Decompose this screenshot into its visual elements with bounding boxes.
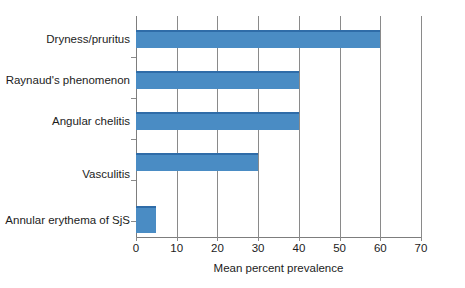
- x-axis-tick: [177, 237, 178, 241]
- x-axis-line: [136, 237, 422, 238]
- category-label-vasculitis: Vasculitis: [0, 168, 130, 180]
- gridline-60: [380, 16, 381, 237]
- y-axis-tick: [131, 57, 136, 58]
- bar-angular-chelitis: [136, 112, 299, 130]
- x-axis-title: Mean percent prevalence: [136, 262, 421, 274]
- x-axis-tick: [217, 237, 218, 241]
- x-tick-label-0: 0: [116, 242, 156, 255]
- category-label-dryness-pruritus: Dryness/pruritus: [0, 33, 130, 45]
- x-tick-label-60: 60: [360, 242, 400, 255]
- category-label-annular-erythema-of-sjs: Annular erythema of SjS: [0, 214, 130, 226]
- x-axis-tick: [258, 237, 259, 241]
- x-tick-label-70: 70: [401, 242, 441, 255]
- x-tick-label-10: 10: [157, 242, 197, 255]
- bar-dryness-pruritus: [136, 30, 380, 48]
- y-axis-tick: [131, 180, 136, 181]
- gridline-40: [299, 16, 300, 237]
- x-axis-tick: [299, 237, 300, 241]
- x-axis-tick: [421, 237, 422, 241]
- gridline-50: [340, 16, 341, 237]
- x-axis-tick: [380, 237, 381, 241]
- bar-vasculitis: [136, 153, 258, 171]
- y-axis-tick: [131, 98, 136, 99]
- bar-annular-erythema-of-sjs: [136, 206, 156, 233]
- bar-chart: Dryness/pruritus Raynaud's phenomenon An…: [0, 0, 465, 288]
- x-axis-tick: [340, 237, 341, 241]
- bar-raynauds-phenomenon: [136, 71, 299, 89]
- category-label-angular-chelitis: Angular chelitis: [0, 115, 130, 127]
- gridline-70: [421, 16, 422, 237]
- x-tick-label-20: 20: [197, 242, 237, 255]
- x-tick-label-50: 50: [320, 242, 360, 255]
- y-axis-tick: [131, 139, 136, 140]
- x-axis-tick: [136, 237, 137, 241]
- x-tick-label-30: 30: [238, 242, 278, 255]
- x-tick-label-40: 40: [279, 242, 319, 255]
- category-label-raynauds-phenomenon: Raynaud's phenomenon: [0, 74, 130, 86]
